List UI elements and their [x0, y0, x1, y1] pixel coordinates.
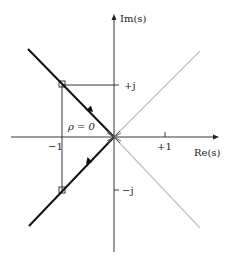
branch-upper-right	[114, 51, 200, 137]
imag-axis-label: Im(s)	[120, 13, 146, 24]
rho-label: ρ = 0	[67, 121, 96, 132]
imag-axis-arrow-icon	[112, 14, 117, 20]
root-locus-diagram: Im(s) Re(s) +j −j −1 +1 ρ = 0	[0, 0, 228, 259]
tick-label-minus-1: −1	[48, 141, 63, 152]
tick-label-plus-1: +1	[157, 141, 172, 152]
real-axis-label: Re(s)	[194, 147, 220, 158]
branch-lower-left	[29, 137, 114, 226]
tick-label-minus-j: −j	[122, 185, 133, 196]
real-axis-arrow-icon	[213, 135, 219, 140]
tick-label-plus-j: +j	[124, 80, 135, 91]
